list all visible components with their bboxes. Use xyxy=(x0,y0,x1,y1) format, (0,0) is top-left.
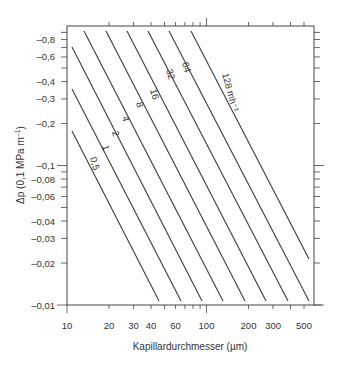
x-tick-label: 30 xyxy=(128,320,139,331)
x-tick-label: 60 xyxy=(170,320,181,331)
y-tick-label: –0,8 xyxy=(37,34,56,45)
x-tick-label: 20 xyxy=(104,320,115,331)
x-tick-label: 500 xyxy=(296,320,312,331)
y-tick-label: –0,2 xyxy=(37,118,56,129)
y-axis: –0,8–0,6–0,4–0,3–0,2–0,1–0,08–0,06–0,04–… xyxy=(31,32,324,310)
x-tick-label: 40 xyxy=(146,320,157,331)
series-line-16 xyxy=(127,31,266,301)
y-axis-title: Δp (0,1 MPa m–1) xyxy=(14,126,26,204)
y-tick-label: –0,01 xyxy=(31,300,55,311)
series-label-1: 1 xyxy=(100,144,112,152)
series-label-0,5: 0,5 xyxy=(88,156,102,172)
chart: 1020304060100200300500 –0,8–0,6–0,4–0,3–… xyxy=(0,0,338,365)
y-tick-label: –0,02 xyxy=(31,258,55,269)
y-tick-label: –0,3 xyxy=(37,93,56,104)
y-tick-label: –0,6 xyxy=(37,51,56,62)
series-line-4 xyxy=(84,31,223,301)
series-label-32: 32 xyxy=(164,68,177,81)
x-tick-label: 300 xyxy=(265,320,281,331)
y-tick-label: –0,04 xyxy=(31,216,55,227)
y-tick-label: –0,03 xyxy=(31,233,55,244)
series-label-2: 2 xyxy=(110,130,122,138)
series-label-8: 8 xyxy=(134,101,146,109)
series-line-2 xyxy=(72,47,202,301)
x-tick-label: 200 xyxy=(241,320,257,331)
x-tick-label: 10 xyxy=(62,320,73,331)
x-axis-title: Kapillardurchmesser (µm) xyxy=(133,341,248,352)
series-line-0,5 xyxy=(72,131,159,301)
y-tick-label: –0,4 xyxy=(37,76,56,87)
series-line-128 xyxy=(191,31,309,259)
series-lines: 0,51248163264128 mh⁻¹ xyxy=(72,31,309,301)
series-label-64: 64 xyxy=(180,61,193,74)
y-tick-label: –0,08 xyxy=(31,174,55,185)
y-tick-label: –0,06 xyxy=(31,191,55,202)
y-tick-label: –0,1 xyxy=(37,160,56,171)
x-tick-label: 100 xyxy=(199,320,215,331)
series-label-16: 16 xyxy=(148,88,161,101)
